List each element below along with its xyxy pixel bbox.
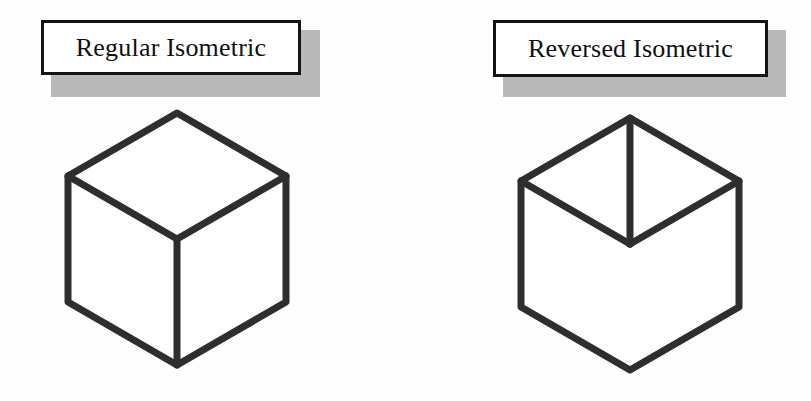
isometric-figure: Regular Isometric Reversed Isometric [0,0,811,401]
reversed-caption-box: Reversed Isometric [493,20,768,77]
reversed-isometric-cube [495,98,770,393]
regular-caption-label: Regular Isometric [76,35,266,61]
regular-caption-box: Regular Isometric [41,20,301,75]
reversed-caption-label: Reversed Isometric [528,36,733,62]
regular-isometric-cube [40,98,315,393]
